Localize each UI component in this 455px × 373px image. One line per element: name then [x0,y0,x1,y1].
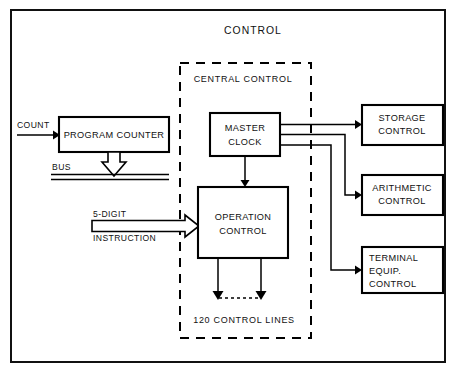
central-control-label: CENTRAL CONTROL [194,74,293,84]
clock-to-operation-arrowhead [241,180,250,187]
clock-to-terminal-wire [280,145,355,270]
control-block-diagram: CONTROL CENTRAL CONTROL COUNT PROGRAM CO… [0,0,455,373]
arithmetic-control-label-line1: ARITHMETIC [372,183,432,193]
master-clock-label-line2: CLOCK [228,137,262,147]
diagram-canvas: CONTROL CENTRAL CONTROL COUNT PROGRAM CO… [0,0,455,373]
count-label: COUNT [17,120,50,130]
terminal-control-label-line1: TERMINAL [369,253,418,263]
operation-control-box [198,187,288,258]
terminal-control-label-line3: CONTROL [369,279,416,289]
master-clock-box [210,113,280,156]
master-clock-label-line1: MASTER [225,123,265,133]
instruction-label-line2: INSTRUCTION [93,233,156,243]
operation-control-label-line1: OPERATION [215,212,272,222]
instruction-label-line1: 5-DIGIT [93,209,127,219]
bus-label: BUS [52,162,71,172]
program-counter-to-bus-arrow [102,152,126,176]
clock-to-arithmetic-wire [280,135,355,196]
program-counter-label: PROGRAM COUNTER [64,130,165,140]
storage-control-label-line1: STORAGE [378,113,425,123]
storage-control-box [362,105,443,145]
terminal-control-label-line2: EQUIP. [369,266,401,276]
control-lines-count-label: 120 CONTROL LINES [193,315,295,325]
arithmetic-control-label-line2: CONTROL [378,196,425,206]
operation-control-label-line2: CONTROL [219,226,266,236]
arithmetic-control-box [362,175,443,215]
page-title: CONTROL [224,25,282,36]
storage-control-label-line2: CONTROL [378,126,425,136]
